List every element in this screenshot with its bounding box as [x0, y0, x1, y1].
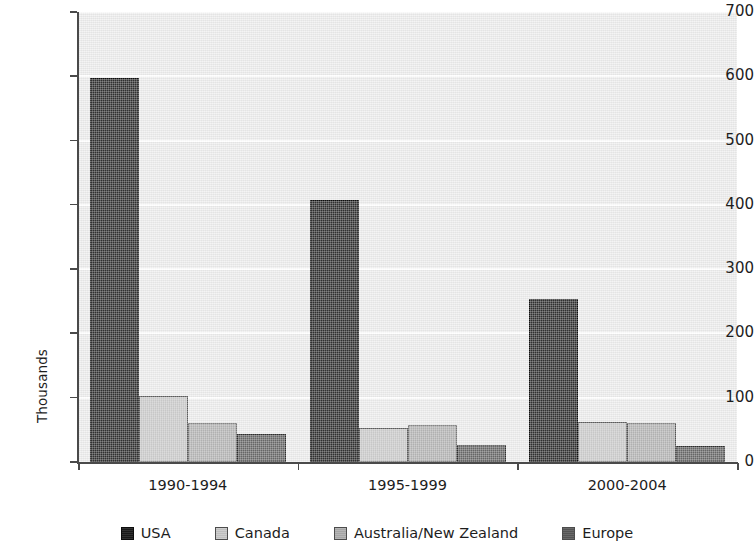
legend-item: Canada: [215, 525, 290, 541]
bar-texture: [189, 424, 236, 461]
x-tick-label: 1990-1994: [98, 477, 278, 493]
legend-swatch-texture: [122, 528, 133, 539]
plot-texture: [78, 12, 737, 462]
y-tick-mark: [70, 332, 77, 334]
y-tick-label: 200: [692, 325, 754, 340]
y-tick-mark: [70, 140, 77, 142]
y-tick-mark: [70, 11, 77, 13]
bar-texture: [311, 201, 358, 461]
bar-chart: Thousands 0100200300400500600700 1990-19…: [0, 0, 754, 549]
legend-label: USA: [141, 525, 171, 541]
x-tick-mark: [517, 463, 519, 470]
bar: [408, 425, 457, 462]
x-tick-mark: [737, 463, 739, 470]
legend-label: Canada: [235, 525, 290, 541]
legend-item: Australia/New Zealand: [334, 525, 518, 541]
bar-texture: [530, 300, 577, 461]
bar-texture: [458, 446, 505, 461]
bar-texture: [91, 79, 138, 461]
y-tick-mark: [70, 397, 77, 399]
chart-legend: USACanadaAustralia/New ZealandEurope: [0, 525, 754, 541]
bar-texture: [238, 435, 285, 461]
y-tick-label: 100: [692, 390, 754, 405]
y-tick-mark: [70, 461, 77, 463]
gridline: [78, 75, 737, 77]
y-axis-title: Thousands: [34, 326, 50, 446]
x-tick-mark: [298, 463, 300, 470]
y-tick-mark: [70, 75, 77, 77]
y-axis-line: [77, 12, 79, 463]
legend-swatch-icon: [121, 527, 134, 540]
bar: [578, 422, 627, 462]
bar-texture: [628, 424, 675, 461]
legend-item: USA: [121, 525, 171, 541]
bar-texture: [140, 397, 187, 461]
x-axis-line: [77, 462, 738, 464]
y-tick-label: 0: [692, 454, 754, 469]
y-tick-label: 300: [692, 261, 754, 276]
legend-swatch-icon: [334, 527, 347, 540]
legend-swatch-icon: [562, 527, 575, 540]
gridline: [78, 268, 737, 270]
y-tick-label: 700: [692, 4, 754, 19]
x-tick-mark: [78, 463, 80, 470]
bar: [188, 423, 237, 462]
bar: [237, 434, 286, 462]
bar: [457, 445, 506, 462]
y-tick-mark: [70, 268, 77, 270]
gridline: [78, 11, 737, 13]
legend-item: Europe: [562, 525, 633, 541]
gridline: [78, 204, 737, 206]
x-tick-label: 2000-2004: [537, 477, 717, 493]
legend-swatch-texture: [563, 528, 574, 539]
gridline: [78, 140, 737, 142]
bar: [529, 299, 578, 462]
legend-swatch-texture: [216, 528, 227, 539]
legend-label: Europe: [582, 525, 633, 541]
bar-texture: [579, 423, 626, 461]
y-tick-label: 400: [692, 197, 754, 212]
x-tick-label: 1995-1999: [318, 477, 498, 493]
legend-swatch-icon: [215, 527, 228, 540]
gridline: [78, 332, 737, 334]
y-tick-mark: [70, 204, 77, 206]
bar: [359, 428, 408, 462]
bar: [627, 423, 676, 462]
bar: [90, 78, 139, 462]
y-tick-label: 600: [692, 68, 754, 83]
bar-texture: [360, 429, 407, 461]
plot-area: [78, 12, 737, 462]
bar: [310, 200, 359, 462]
y-tick-label: 500: [692, 133, 754, 148]
bar-texture: [409, 426, 456, 461]
bar: [139, 396, 188, 462]
legend-label: Australia/New Zealand: [354, 525, 518, 541]
legend-swatch-texture: [335, 528, 346, 539]
